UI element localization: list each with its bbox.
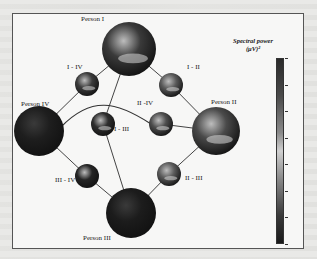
node-label: III - IV — [55, 176, 75, 184]
node-sphere-iii-iv — [75, 164, 99, 188]
sphere-highlight — [164, 176, 177, 180]
spectral-power-colorbar — [276, 58, 284, 244]
node-label: I - III — [114, 125, 129, 133]
sphere-highlight — [98, 126, 111, 130]
colorbar-tick — [285, 191, 288, 192]
node-sphere-i-iii — [91, 112, 115, 136]
node-label: II - III — [185, 174, 203, 182]
colorbar-tick — [285, 138, 288, 139]
node-sphere-i-iv — [75, 72, 99, 96]
node-label: Person II — [211, 98, 236, 106]
node-sphere-person-ii — [192, 107, 240, 155]
colorbar-tick — [285, 164, 288, 165]
colorbar-title-text: Spectral power — [233, 37, 273, 45]
node-sphere-ii-iv — [149, 112, 173, 136]
node-sphere-ii-iii — [157, 162, 181, 186]
sphere-highlight — [156, 126, 169, 130]
node-sphere-person-iii — [106, 188, 156, 238]
colorbar-tick — [285, 85, 288, 86]
colorbar-tick — [285, 111, 288, 112]
colorbar-tick — [285, 217, 288, 218]
hyperscanning-network-figure: Person II - IVI - IIPerson IVPerson IIII… — [12, 13, 304, 249]
colorbar-tick — [285, 58, 288, 59]
colorbar-title: Spectral power (μV)² — [233, 37, 273, 53]
sphere-highlight — [82, 86, 95, 90]
node-sphere-person-iv — [14, 106, 64, 156]
node-sphere-person-i — [102, 22, 156, 76]
sphere-highlight — [166, 87, 179, 91]
node-label: Person I — [81, 15, 104, 23]
colorbar-tick — [285, 244, 288, 245]
node-label: Person IV — [21, 100, 49, 108]
node-label: I - II — [187, 63, 200, 71]
node-label: I - IV — [67, 63, 83, 71]
node-label: II -IV — [137, 99, 153, 107]
node-sphere-i-ii — [159, 73, 183, 97]
sphere-highlight — [206, 135, 232, 144]
sphere-highlight — [118, 54, 148, 64]
colorbar-unit: (μV)² — [233, 45, 273, 53]
node-label: Person III — [83, 234, 111, 242]
